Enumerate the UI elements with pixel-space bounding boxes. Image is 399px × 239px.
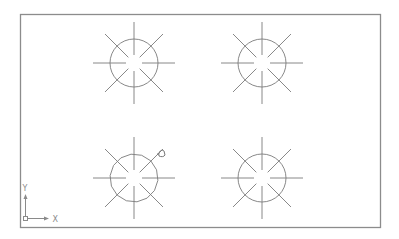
symbol-ray <box>233 34 256 57</box>
ucs-origin-box <box>24 217 28 221</box>
symbol-top-right[interactable] <box>221 22 303 104</box>
symbol-ray <box>268 69 291 92</box>
symbol-bottom-left[interactable] <box>93 137 175 219</box>
symbol-ray <box>105 184 128 207</box>
symbol-ray <box>105 69 128 92</box>
symbol-ray <box>268 34 291 57</box>
viewport-frame <box>21 15 381 228</box>
symbol-ray <box>140 34 163 57</box>
symbol-ray <box>105 34 128 57</box>
ucs-x-label: X <box>53 215 59 224</box>
symbols-layer <box>93 22 303 219</box>
ucs-y-label: Y <box>22 184 28 193</box>
symbol-bottom-right[interactable] <box>221 137 303 219</box>
symbol-ray <box>105 149 128 172</box>
symbol-ray <box>233 69 256 92</box>
symbol-ray <box>233 149 256 172</box>
ucs-x-arrowhead <box>44 217 49 221</box>
symbol-top-left[interactable] <box>93 22 175 104</box>
ucs-icon <box>24 194 50 221</box>
symbol-ray <box>140 69 163 92</box>
ucs-y-arrowhead <box>24 194 28 199</box>
symbol-ray <box>140 184 163 207</box>
symbol-ray <box>268 184 291 207</box>
symbol-ray <box>268 149 291 172</box>
drawing-canvas[interactable]: Y X <box>0 0 399 239</box>
symbol-ray <box>233 184 256 207</box>
